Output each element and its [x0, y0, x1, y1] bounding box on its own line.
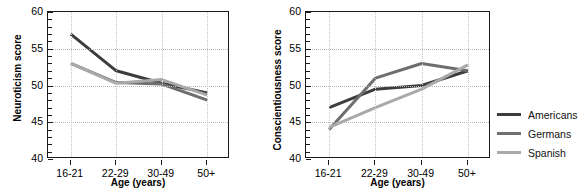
y-tick-minor [48, 100, 52, 101]
gridline-vertical [207, 12, 208, 157]
figure-two-line-charts: Neuroticism score 4045505560 16-2122-293… [0, 0, 582, 195]
y-tick-label: 50 [31, 79, 43, 91]
y-tick-minor [306, 71, 310, 72]
y-tick-minor [306, 78, 310, 79]
y-tick-minor [306, 41, 310, 42]
series-line-spanish [71, 63, 208, 95]
y-tick-minor [306, 19, 310, 20]
chart-legend: AmericansGermansSpanish [497, 105, 581, 162]
x-axis-title-right: Age (years) [305, 177, 490, 188]
y-tick-minor [48, 71, 52, 72]
y-tick-minor [306, 56, 310, 57]
x-axis-labels-right: 16-2122-2930-4950+ [305, 160, 490, 176]
y-tick-minor [306, 63, 310, 64]
gridline-vertical [422, 12, 423, 157]
x-tick-mark [70, 160, 71, 165]
y-tick-minor [306, 137, 310, 138]
x-tick-mark [206, 160, 207, 165]
legend-item: Americans [497, 105, 581, 124]
y-tick-label: 60 [289, 5, 301, 17]
legend-item: Spanish [497, 143, 581, 162]
y-tick-label: 55 [289, 42, 301, 54]
gridline-horizontal [48, 86, 228, 87]
gridline-vertical [468, 12, 469, 157]
legend-label: Germans [528, 128, 571, 140]
gridline-vertical [116, 12, 117, 157]
x-tick-mark [421, 160, 422, 165]
chart-panel-conscientiousness: Conscientiousness score 4045505560 16-21… [258, 0, 520, 195]
y-tick-major [306, 122, 311, 123]
y-tick-minor [48, 78, 52, 79]
y-tick-minor [306, 108, 310, 109]
y-tick-label: 55 [31, 42, 43, 54]
y-tick-minor [48, 34, 52, 35]
plot-area-conscientiousness [305, 11, 490, 158]
y-tick-label: 45 [289, 115, 301, 127]
y-tick-major [48, 12, 53, 13]
plot-area-neuroticism [47, 11, 229, 158]
y-tick-minor [48, 137, 52, 138]
y-tick-minor [48, 63, 52, 64]
y-tick-minor [48, 56, 52, 57]
x-tick-mark [328, 160, 329, 165]
legend-label: Spanish [528, 147, 566, 159]
y-tick-major [48, 86, 53, 87]
legend-label: Americans [528, 109, 578, 121]
y-tick-label: 45 [31, 115, 43, 127]
series-line-spanish [329, 65, 468, 127]
gridline-vertical [329, 12, 330, 157]
y-tick-major [48, 122, 53, 123]
y-tick-minor [48, 41, 52, 42]
x-axis-title-left: Age (years) [47, 177, 229, 188]
y-tick-minor [48, 152, 52, 153]
y-tick-major [306, 12, 311, 13]
y-tick-minor [306, 130, 310, 131]
y-tick-major [306, 49, 311, 50]
gridline-horizontal [306, 122, 489, 123]
legend-swatch-americans [497, 113, 521, 116]
y-tick-major [306, 86, 311, 87]
y-tick-label: 40 [289, 152, 301, 164]
gridline-vertical [375, 12, 376, 157]
y-tick-minor [48, 19, 52, 20]
y-tick-minor [306, 34, 310, 35]
y-tick-minor [48, 130, 52, 131]
x-tick-mark [161, 160, 162, 165]
y-axis-labels-left: 4045505560 [0, 11, 43, 158]
x-tick-mark [467, 160, 468, 165]
legend-item: Germans [497, 124, 581, 143]
y-tick-minor [48, 27, 52, 28]
y-tick-minor [306, 93, 310, 94]
gridline-vertical [162, 12, 163, 157]
y-tick-minor [48, 115, 52, 116]
y-tick-label: 50 [289, 79, 301, 91]
x-tick-mark [115, 160, 116, 165]
x-tick-mark [374, 160, 375, 165]
x-axis-labels-left: 16-2122-2930-4950+ [47, 160, 229, 176]
y-tick-minor [306, 115, 310, 116]
y-tick-minor [306, 27, 310, 28]
y-axis-labels-right: 4045505560 [258, 11, 301, 158]
gridline-horizontal [48, 122, 228, 123]
y-tick-label: 60 [31, 5, 43, 17]
legend-swatch-spanish [497, 151, 521, 154]
gridline-horizontal [48, 49, 228, 50]
y-tick-minor [306, 144, 310, 145]
y-tick-minor [48, 144, 52, 145]
chart-panel-neuroticism: Neuroticism score 4045505560 16-2122-293… [0, 0, 260, 195]
y-tick-minor [306, 100, 310, 101]
y-tick-minor [48, 93, 52, 94]
legend-swatch-germans [497, 132, 521, 135]
y-tick-minor [306, 152, 310, 153]
gridline-horizontal [306, 86, 489, 87]
y-tick-major [48, 49, 53, 50]
y-tick-minor [48, 108, 52, 109]
y-tick-label: 40 [31, 152, 43, 164]
gridline-horizontal [306, 49, 489, 50]
gridline-vertical [71, 12, 72, 157]
